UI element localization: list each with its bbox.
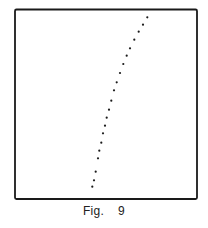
- data-point: [95, 171, 97, 173]
- data-point: [91, 186, 93, 188]
- data-point: [146, 16, 148, 18]
- figure-caption: Fig.9: [0, 204, 208, 218]
- data-point: [138, 31, 140, 33]
- data-point: [108, 109, 110, 111]
- data-point: [106, 117, 108, 119]
- data-point: [116, 81, 118, 83]
- data-point: [104, 125, 106, 127]
- data-point: [133, 39, 135, 41]
- caption-label: Fig.: [83, 204, 104, 218]
- plot-frame: [15, 10, 197, 200]
- data-point: [102, 132, 104, 134]
- data-point: [100, 142, 102, 144]
- data-point: [129, 47, 131, 49]
- data-point: [93, 179, 95, 181]
- data-points: [91, 16, 148, 188]
- data-point: [113, 89, 115, 91]
- data-point: [122, 63, 124, 65]
- data-point: [110, 100, 112, 102]
- data-point: [126, 55, 128, 57]
- data-point: [119, 72, 121, 74]
- caption-number: 9: [118, 204, 125, 218]
- data-point: [97, 157, 99, 159]
- data-point: [98, 150, 100, 152]
- data-point: [142, 24, 144, 26]
- figure-plot: [0, 0, 208, 228]
